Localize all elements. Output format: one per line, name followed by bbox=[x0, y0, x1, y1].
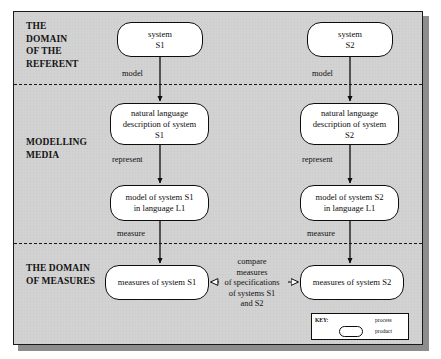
edge-label-measure-s1: measure bbox=[117, 229, 145, 238]
edge-label-represent-s1: represent bbox=[112, 155, 143, 164]
key-legend-product-shape bbox=[339, 326, 363, 337]
diagram-canvas: THE DOMAIN OF THE REFERENT MODELLING MED… bbox=[0, 0, 441, 359]
node-system-s2[interactable]: system S2 bbox=[307, 22, 393, 57]
node-model-of-system-s1[interactable]: model of system S1 in language L1 bbox=[110, 185, 209, 221]
node-measures-of-system-s1[interactable]: measures of system S1 bbox=[105, 265, 209, 300]
band-label-the-domain-of-measures: THE DOMAIN OF MEASURES bbox=[26, 262, 95, 287]
edge-label-represent-s2: represent bbox=[302, 155, 333, 164]
edge-label-model-s2: model bbox=[312, 69, 333, 78]
edge-label-model-s1: model bbox=[122, 69, 143, 78]
band-label-modelling-media: MODELLING MEDIA bbox=[26, 136, 87, 161]
edge-label-measure-s2: measure bbox=[307, 229, 335, 238]
node-measures-of-system-s2[interactable]: measures of system S2 bbox=[300, 265, 404, 300]
node-natural-language-description-s2[interactable]: natural language description of system S… bbox=[300, 103, 399, 145]
band-label-the-domain-of-the-referent: THE DOMAIN OF THE REFERENT bbox=[26, 20, 79, 70]
band-divider-referent-modelling bbox=[14, 84, 422, 85]
node-natural-language-description-s1[interactable]: natural language description of system S… bbox=[110, 103, 209, 145]
compare-measures-annotation: compare measures of specifications of sy… bbox=[210, 257, 294, 310]
node-system-s1[interactable]: system S1 bbox=[117, 22, 203, 57]
band-divider-modelling-measures bbox=[14, 243, 422, 244]
key-legend-title: KEY: bbox=[315, 317, 328, 323]
key-legend-product-label: product bbox=[375, 328, 392, 334]
node-model-of-system-s2[interactable]: model of system S2 in language L1 bbox=[300, 185, 399, 221]
key-legend-process-label: process bbox=[375, 317, 392, 323]
